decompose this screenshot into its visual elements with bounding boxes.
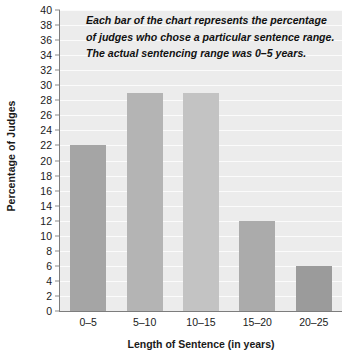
annotation-line: of judges who chose a particular sentenc… [86,29,338,46]
bar [183,93,219,311]
x-tick-label: 10–15 [173,316,229,328]
y-tick-label: 40 [24,5,52,16]
y-tick-label: 22 [24,140,52,151]
x-axis-tick-labels: 0–55–1010–1515–2020–25 [60,316,342,332]
y-tick-label: 38 [24,20,52,31]
x-axis-line [59,311,342,312]
y-axis-tick-labels: 0246810121416182022242628303234363840 [24,10,52,311]
y-tick-label: 34 [24,50,52,61]
y-tick-label: 16 [24,185,52,196]
bar [239,221,275,311]
bar [70,145,106,311]
y-tick-label: 2 [24,291,52,302]
x-tick-label: 15–20 [229,316,285,328]
bar [127,93,163,311]
y-tick-label: 10 [24,231,52,242]
y-tick-label: 4 [24,276,52,287]
y-tick-label: 14 [24,200,52,211]
x-tick-label: 20–25 [286,316,342,328]
x-tick-label: 0–5 [60,316,116,328]
y-tick-label: 30 [24,80,52,91]
y-tick-label: 20 [24,155,52,166]
y-tick-label: 24 [24,125,52,136]
y-tick-label: 8 [24,246,52,257]
annotation-line: Each bar of the chart represents the per… [86,12,338,29]
y-tick-label: 28 [24,95,52,106]
annotation-line: The actual sentencing range was 0–5 year… [86,45,338,62]
bar-chart-figure: Percentage of Judges 0246810121416182022… [0,0,352,362]
y-tick-label: 12 [24,215,52,226]
x-axis-title: Length of Sentence (in years) [60,338,342,350]
y-tick-label: 36 [24,35,52,46]
y-axis-title-text: Percentage of Judges [5,100,17,211]
y-axis-title: Percentage of Judges [0,0,22,311]
y-tick-label: 18 [24,170,52,181]
y-tick-label: 6 [24,261,52,272]
x-tick-label: 5–10 [117,316,173,328]
y-tick-label: 32 [24,65,52,76]
chart-annotation: Each bar of the chart represents the per… [86,12,338,62]
bar [296,266,332,311]
y-tick-label: 0 [24,306,52,317]
y-tick-label: 26 [24,110,52,121]
